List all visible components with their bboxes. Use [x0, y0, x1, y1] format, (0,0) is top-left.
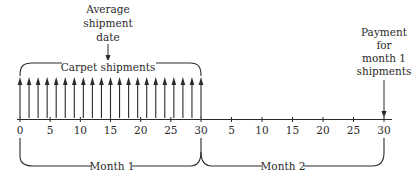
arrowhead-icon — [126, 77, 131, 85]
axis-tick-label: 10 — [255, 124, 268, 136]
axis-tick-label: 25 — [164, 124, 177, 136]
axis-tick-label: 5 — [228, 124, 235, 136]
month-2-label: Month 2 — [261, 160, 306, 172]
axis-tick-label: 20 — [134, 124, 147, 136]
payment-line-3: month 1 — [362, 52, 406, 64]
axis-tick-label: 25 — [347, 124, 360, 136]
arrowhead-icon — [135, 77, 140, 85]
arrowhead-icon — [72, 77, 77, 85]
month-1-brace-right — [132, 138, 201, 166]
month-1-brace-left — [20, 138, 92, 166]
arrowhead-icon — [172, 77, 177, 85]
arrowhead-icon — [27, 77, 32, 85]
payment-line-4: shipments — [357, 65, 412, 77]
arrowhead-icon — [99, 77, 104, 85]
axis-tick-labels: 05101520253051015202530 — [17, 124, 391, 136]
shipment-timeline-diagram: Average shipment date Carpet shipments P… — [0, 0, 420, 181]
arrowhead-icon — [181, 77, 186, 85]
average-line-1: Average — [85, 3, 130, 15]
month-2-brace-left — [201, 152, 262, 166]
arrowhead-icon — [18, 77, 23, 85]
arrowhead-icon — [54, 77, 59, 85]
arrowhead-icon — [190, 77, 195, 85]
axis-tick-label: 5 — [47, 124, 54, 136]
axis-tick-label: 20 — [316, 124, 329, 136]
arrowhead-icon — [199, 77, 204, 85]
axis-tick-label: 10 — [74, 124, 87, 136]
payment-arrowhead-icon — [382, 111, 387, 118]
payment-line-2: for — [376, 39, 392, 51]
axis-tick-label: 15 — [104, 124, 117, 136]
arrowhead-icon — [144, 77, 149, 85]
carpet-shipments-label: Carpet shipments — [61, 61, 156, 73]
arrowhead-icon — [90, 77, 95, 85]
shipment-arrows — [18, 77, 204, 118]
axis-tick-label: 30 — [377, 124, 390, 136]
month-1-label: Month 1 — [90, 160, 135, 172]
average-line-3: date — [96, 31, 119, 43]
arrowhead-icon — [153, 77, 158, 85]
arrowhead-icon — [63, 77, 68, 85]
axis-tick-label: 30 — [194, 124, 207, 136]
arrowhead-icon — [163, 77, 168, 85]
payment-line-1: Payment — [361, 26, 408, 38]
arrowhead-icon — [45, 77, 50, 85]
axis-tick-label: 15 — [286, 124, 299, 136]
axis-tick-label: 0 — [17, 124, 24, 136]
arrowhead-icon — [36, 77, 41, 85]
arrowhead-icon — [81, 77, 86, 85]
average-shipment-date-label: Average shipment date — [83, 3, 133, 43]
average-line-2: shipment — [83, 17, 133, 29]
arrowhead-icon — [117, 77, 122, 85]
arrowhead-icon — [108, 77, 113, 85]
month-2-brace-right — [304, 138, 384, 166]
payment-label: Payment for month 1 shipments — [357, 26, 412, 77]
